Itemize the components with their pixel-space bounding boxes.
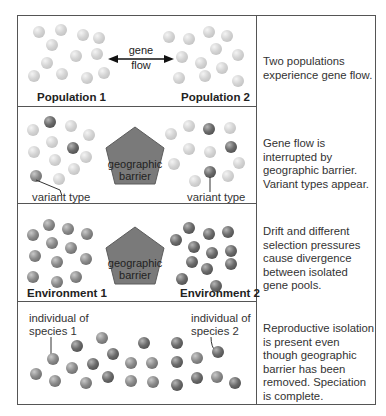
individual-light xyxy=(232,49,244,61)
individual-light xyxy=(168,158,180,170)
individual-species-2 xyxy=(138,337,150,349)
individual-light xyxy=(46,39,58,51)
individual-light xyxy=(222,170,234,182)
individual-light xyxy=(232,75,244,87)
individual-light xyxy=(183,120,195,132)
individual-light xyxy=(165,128,177,140)
individual-light xyxy=(55,24,67,36)
individual xyxy=(43,219,55,231)
individual-species-2 xyxy=(71,340,83,352)
individual xyxy=(51,256,63,268)
gene-flow-label-line2: flow xyxy=(121,59,161,72)
individual xyxy=(70,271,82,283)
population-2-label: Population 2 xyxy=(181,91,250,103)
individual-species-1 xyxy=(47,353,59,365)
individual-light xyxy=(183,143,195,155)
individual-light xyxy=(189,175,201,187)
individual-light xyxy=(173,72,185,84)
individual xyxy=(62,223,74,235)
individual xyxy=(27,271,39,283)
individual-species-2 xyxy=(171,337,183,349)
individual-species-2 xyxy=(229,377,241,389)
individual xyxy=(186,256,198,268)
individual-species-1 xyxy=(125,375,137,387)
individual-species-2 xyxy=(87,358,99,370)
individual-light xyxy=(49,154,61,166)
individual-light xyxy=(199,70,211,82)
individual-light xyxy=(70,50,82,62)
individual-light xyxy=(93,32,105,44)
individual-light xyxy=(233,157,245,169)
individual-species-1 xyxy=(211,371,223,383)
individual-light xyxy=(28,146,40,158)
individual-light xyxy=(77,29,89,41)
column-divider xyxy=(256,15,257,405)
individual-variant xyxy=(67,142,79,154)
row-divider-3 xyxy=(17,301,257,302)
barrier-label-line2: barrier xyxy=(105,269,165,281)
individual-species-1 xyxy=(30,368,42,380)
individual xyxy=(46,237,58,249)
individual-species-2 xyxy=(212,346,224,358)
barrier-label-line1: geographic xyxy=(105,257,165,269)
individual xyxy=(80,253,92,265)
individual xyxy=(188,241,200,253)
individual xyxy=(222,226,234,238)
individual-variant xyxy=(44,116,56,128)
individual-species-2 xyxy=(102,371,114,383)
individual-species-1 xyxy=(66,362,78,374)
individual-species-1 xyxy=(125,357,137,369)
individual-species-1 xyxy=(191,352,203,364)
individual-light xyxy=(216,62,228,74)
individual-light xyxy=(68,163,80,175)
population-1-label: Population 1 xyxy=(37,91,106,103)
variant-type-label-right: variant type xyxy=(187,191,245,204)
individual-species-2 xyxy=(107,348,119,360)
individual xyxy=(183,222,195,234)
barrier-label-line2: barrier xyxy=(105,170,165,182)
description-row-4: Reproductive isolation is present even t… xyxy=(263,322,375,403)
individual-species-1 xyxy=(147,376,159,388)
row-divider-1 xyxy=(17,106,257,107)
individual-light xyxy=(33,26,45,38)
individual xyxy=(225,245,237,257)
individual-light xyxy=(203,26,215,38)
description-row-1: Two populations experience gene flow. xyxy=(263,55,375,82)
individual-light xyxy=(28,70,40,82)
individual-species-2 xyxy=(171,356,183,368)
individual-light xyxy=(183,33,195,45)
individual-light xyxy=(83,129,95,141)
gene-flow-label-line1: gene xyxy=(121,44,161,57)
individual-light xyxy=(221,30,233,42)
environment-2-label: Environment 2 xyxy=(180,287,260,299)
individual-light xyxy=(46,136,58,148)
individual xyxy=(65,242,77,254)
individual xyxy=(201,263,213,275)
description-row-3: Drift and different selection pressures … xyxy=(263,225,375,293)
individual-light xyxy=(56,68,68,80)
individual-light xyxy=(204,146,216,158)
individual xyxy=(170,234,182,246)
individual-light xyxy=(81,72,93,84)
individual-light xyxy=(65,120,77,132)
individual-light xyxy=(176,51,188,63)
individual-species-1 xyxy=(80,377,92,389)
barrier-label-line1: geographic xyxy=(105,158,165,170)
individual-light xyxy=(224,122,236,134)
individual xyxy=(225,258,237,270)
individual-light xyxy=(41,57,53,69)
individual xyxy=(176,273,188,285)
individual xyxy=(81,228,93,240)
environment-1-label: Environment 1 xyxy=(27,287,107,299)
species-2-callout-line1: individual of xyxy=(191,312,251,325)
species-1-callout-line1: individual of xyxy=(29,312,89,325)
individual-species-1 xyxy=(49,375,61,387)
individual-light xyxy=(27,124,39,136)
individual-light xyxy=(163,31,175,43)
individual-light xyxy=(210,43,222,55)
variant-type-label-left: variant type xyxy=(32,191,90,204)
individual-species-1 xyxy=(96,332,108,344)
individual-variant xyxy=(203,123,215,135)
individual-species-1 xyxy=(146,357,158,369)
description-row-2: Gene flow is interrupted by geographic b… xyxy=(263,137,375,191)
